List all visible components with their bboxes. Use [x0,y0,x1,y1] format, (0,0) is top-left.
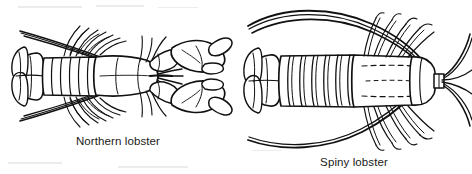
northern-lobster-drawing [0,0,236,135]
spiny-lobster-drawing [236,0,472,156]
specimen-northern-lobster: Northern lobster [0,0,236,174]
lobster-comparison-figure: Northern lobster [0,0,472,174]
specimen-spiny-lobster: Spiny lobster [236,0,472,174]
caption-northern-lobster: Northern lobster [0,135,236,147]
caption-spiny-lobster: Spiny lobster [236,156,472,168]
